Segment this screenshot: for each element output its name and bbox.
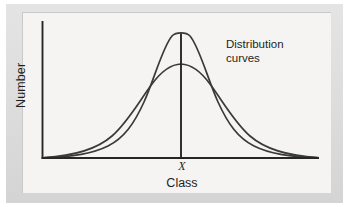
mean-symbol-letter: X <box>178 159 185 173</box>
annotation-line-2: curves <box>226 52 284 66</box>
mean-symbol-label: X <box>162 159 202 173</box>
distribution-curves-annotation: Distribution curves <box>226 38 284 65</box>
distribution-curves-figure: Number X Class Distribution curves <box>0 0 349 207</box>
y-axis-label: Number <box>14 50 29 120</box>
x-axis-label: Class <box>142 176 222 191</box>
annotation-line-1: Distribution <box>226 38 284 52</box>
